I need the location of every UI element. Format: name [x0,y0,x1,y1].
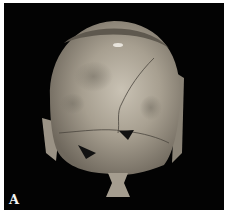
figure-panel: A [4,3,224,210]
panel-label: A [9,193,19,206]
skull-image [4,3,224,210]
